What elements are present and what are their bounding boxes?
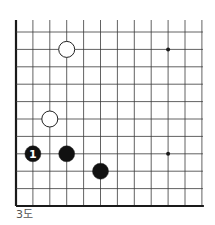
stone-circle <box>59 146 75 162</box>
stone-circle <box>42 111 58 127</box>
stone-circle <box>93 163 109 179</box>
star-point <box>166 47 170 51</box>
go-board-diagram: 1 <box>0 0 215 225</box>
black-stone-1: 1 <box>25 146 41 162</box>
star-point <box>166 152 170 156</box>
black-stone <box>93 163 109 179</box>
stone-circle <box>59 41 75 57</box>
black-stone <box>59 146 75 162</box>
white-stone <box>42 111 58 127</box>
move-number-label: 1 <box>29 148 37 161</box>
white-stone <box>59 41 75 57</box>
diagram-caption: 3도 <box>16 208 33 222</box>
